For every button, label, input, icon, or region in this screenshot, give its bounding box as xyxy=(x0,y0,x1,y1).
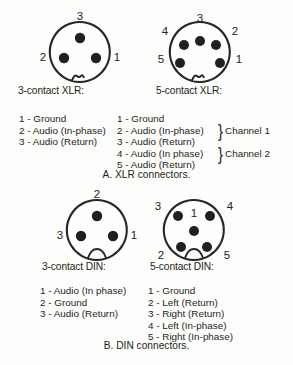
pin-number: 4 xyxy=(227,200,234,212)
pin-number: 1 xyxy=(114,51,120,63)
legend-line: 1 - Audio (In phase) xyxy=(40,285,126,297)
diagram-5-contact-xlr: 3 4 2 5 1 xyxy=(158,12,248,90)
pin-dot xyxy=(175,58,185,68)
legend-5-contact-xlr: 1 - Ground 2 - Audio (In-phase) 3 - Audi… xyxy=(117,113,204,171)
pin-number: 2 xyxy=(94,188,100,200)
channel-label: Channel 1 xyxy=(225,125,270,136)
label-3-contact-xlr: 3-contact XLR: xyxy=(18,85,84,96)
legend-3-contact-din: 1 - Audio (In phase) 2 - Ground 3 - Audi… xyxy=(40,285,126,320)
pin-number: 3 xyxy=(155,200,161,212)
pin-number: 1 xyxy=(131,229,137,241)
diagram-3-contact-din: 2 3 1 xyxy=(55,190,145,266)
legend-line: 2 - Audio (In-phase) xyxy=(19,125,106,137)
pin-dot xyxy=(195,36,205,46)
legend-line: 2 - Left (Return) xyxy=(148,297,233,309)
pin-dot xyxy=(205,211,215,221)
5-contact-din-drawing: 3 4 1 2 5 xyxy=(152,190,242,266)
pin-number: 2 xyxy=(158,249,164,261)
connector-shell xyxy=(50,22,110,82)
pin-dot xyxy=(76,231,86,241)
legend-line: 1 - Ground xyxy=(117,113,204,125)
pin-dot xyxy=(189,226,199,236)
pin-dot xyxy=(108,231,118,241)
pin-dot xyxy=(211,40,221,50)
channel-label: Channel 2 xyxy=(225,148,270,159)
pin-dot xyxy=(202,242,212,252)
pin-dot xyxy=(75,33,85,43)
legend-line: 1 - Ground xyxy=(19,113,106,125)
legend-line: 2 - Ground xyxy=(40,297,126,309)
legend-5-contact-din: 1 - Ground 2 - Left (Return) 3 - Right (… xyxy=(148,285,233,343)
pin-number: 1 xyxy=(236,53,242,65)
legend-line: 1 - Ground xyxy=(148,285,233,297)
5-contact-xlr-drawing: 3 4 2 5 1 xyxy=(158,12,248,90)
pin-number: 4 xyxy=(162,25,169,37)
pin-dot xyxy=(92,211,102,221)
pin-dot xyxy=(173,211,183,221)
label-3-contact-din: 3-contact DIN: xyxy=(42,261,106,272)
channel-2-brace-group: } Channel 2 xyxy=(218,148,270,159)
pin-number: 3 xyxy=(197,12,203,24)
legend-line: 3 - Audio (Return) xyxy=(117,136,204,148)
diagram-3-contact-xlr: 3 2 1 xyxy=(38,12,128,90)
legend-line: 3 - Right (Return) xyxy=(148,308,233,320)
pin-number: 2 xyxy=(40,51,46,63)
pin-number: 3 xyxy=(57,229,63,241)
connector-pinout-figure: 3 2 1 3 4 2 5 1 3-contact XLR: 5-contact… xyxy=(0,0,293,365)
pin-number: 1 xyxy=(191,207,197,219)
legend-line: 3 - Audio (Return) xyxy=(19,136,106,148)
pin-number: 5 xyxy=(158,53,164,65)
legend-line: 3 - Audio (Return) xyxy=(40,308,126,320)
figure-b-caption: B. DIN connectors. xyxy=(0,340,293,351)
pin-dot xyxy=(176,242,186,252)
diagram-5-contact-din: 3 4 1 2 5 xyxy=(152,190,242,266)
figure-a-caption: A. XLR connectors. xyxy=(0,169,293,180)
brace-icon: } xyxy=(218,124,223,137)
pin-dot xyxy=(59,53,69,63)
pin-dot xyxy=(91,53,101,63)
channel-1-brace-group: } Channel 1 xyxy=(218,125,270,136)
3-contact-xlr-drawing: 3 2 1 xyxy=(38,12,128,90)
pin-number: 3 xyxy=(77,10,83,22)
label-5-contact-xlr: 5-contact XLR: xyxy=(156,85,222,96)
brace-icon: } xyxy=(218,147,223,160)
pin-dot xyxy=(179,40,189,50)
3-contact-din-drawing: 2 3 1 xyxy=(55,190,145,266)
pin-number: 2 xyxy=(232,25,238,37)
legend-line: 2 - Audio (In-phase) xyxy=(117,125,204,137)
pin-number: 5 xyxy=(224,249,230,261)
connector-shell xyxy=(170,22,230,82)
legend-3-contact-xlr: 1 - Ground 2 - Audio (In-phase) 3 - Audi… xyxy=(19,113,106,148)
legend-line: 4 - Left (In-phase) xyxy=(148,320,233,332)
pin-dot xyxy=(215,58,225,68)
label-5-contact-din: 5-contact DIN: xyxy=(150,261,214,272)
legend-line: 4 - Audio (In phase) xyxy=(117,148,204,160)
